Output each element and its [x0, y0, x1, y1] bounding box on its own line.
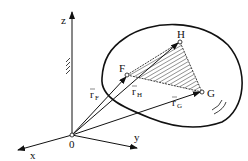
svg-text:r: r: [90, 88, 94, 100]
vector-r-h: [72, 43, 178, 135]
point-origin: [70, 133, 74, 137]
y-axis-label: y: [134, 131, 140, 143]
z-axis-label: z: [61, 14, 66, 26]
motion-indicator-icon: [212, 100, 226, 114]
origin-label: 0: [69, 138, 75, 150]
svg-text:r: r: [172, 96, 176, 108]
point-g-label: G: [207, 87, 215, 99]
diagram-canvas: z x y 0 F H G r F r H r G: [0, 0, 248, 161]
x-axis-label: x: [30, 149, 36, 161]
hatched-triangle-fhg: [127, 42, 202, 92]
y-axis: [72, 135, 137, 148]
fixed-frame-hatch-icon: [66, 58, 70, 74]
vector-r-h-label: r H: [132, 85, 142, 99]
x-axis: [18, 135, 72, 150]
point-f-label: F: [119, 62, 125, 74]
point-f: [125, 73, 129, 77]
svg-text:F: F: [95, 94, 99, 102]
vector-r-f-label: r F: [90, 88, 99, 102]
point-h-label: H: [177, 28, 185, 40]
svg-text:r: r: [132, 85, 136, 97]
svg-text:H: H: [137, 91, 142, 99]
svg-text:G: G: [177, 102, 182, 110]
point-h: [178, 40, 182, 44]
point-g: [200, 90, 204, 94]
